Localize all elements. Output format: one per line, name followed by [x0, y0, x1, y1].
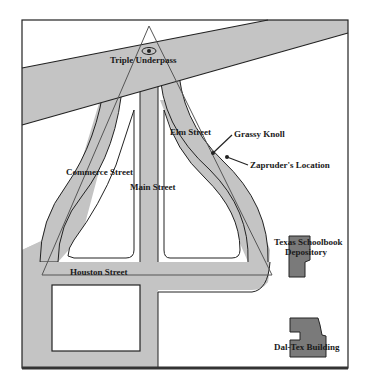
label-texas-schoolbook-line2: Depository: [285, 248, 327, 257]
lower-block: [52, 285, 140, 351]
label-triple-underpass: Triple Underpass: [110, 56, 177, 65]
lower-right-area: [158, 280, 270, 368]
dealey-plaza-map: [0, 0, 365, 388]
zapruder-marker: [225, 155, 229, 159]
label-grassy-knoll: Grassy Knoll: [234, 130, 285, 139]
label-zapruder-location: Zapruder's Location: [250, 161, 330, 170]
label-elm-street: Elm Street: [170, 128, 211, 137]
label-main-street: Main Street: [130, 183, 176, 192]
grassy-knoll-marker: [211, 151, 215, 155]
label-houston-street: Houston Street: [70, 268, 128, 277]
main-street-road: [140, 70, 158, 270]
label-dal-tex-building: Dal-Tex Building: [274, 343, 339, 352]
label-texas-schoolbook-line1: Texas Schoolbook: [274, 238, 342, 247]
label-commerce-street: Commerce Street: [66, 168, 133, 177]
